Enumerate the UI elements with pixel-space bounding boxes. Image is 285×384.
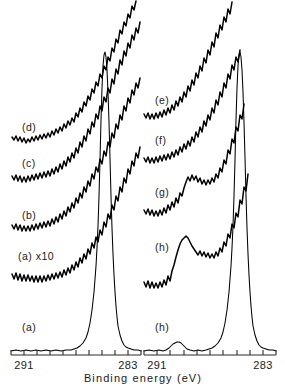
trace-label-h-x10: (h): [155, 241, 169, 253]
trace-label-d: (d): [22, 121, 36, 133]
left-tick-label-283: 283: [118, 359, 138, 371]
trace-label-c: (c): [22, 157, 36, 169]
trace-label-a: (a): [22, 321, 36, 333]
right-panel: 291 283 (e) (f) (g) (h) (h): [144, 2, 276, 371]
left-tick-label-291: 291: [14, 359, 34, 371]
trace-f-curve: [144, 50, 240, 163]
trace-label-g: (g): [155, 186, 169, 198]
right-tick-label-283: 283: [253, 359, 273, 371]
x-axis-title: Binding energy (eV): [84, 372, 202, 384]
trace-label-a-x10: (a) x10: [18, 250, 54, 262]
trace-label-e: (e): [155, 94, 169, 106]
xps-spectra-figure: 291 283 (d) (c) (b) (a) x10 (a): [0, 0, 285, 384]
trace-label-f: (f): [155, 134, 166, 146]
right-tick-label-291: 291: [147, 359, 167, 371]
spectra-plot-canvas: 291 283 (d) (c) (b) (a) x10 (a): [0, 0, 285, 384]
left-panel: 291 283 (d) (c) (b) (a) x10 (a): [11, 1, 141, 371]
trace-label-h: (h): [155, 321, 169, 333]
trace-label-b: (b): [22, 209, 36, 221]
